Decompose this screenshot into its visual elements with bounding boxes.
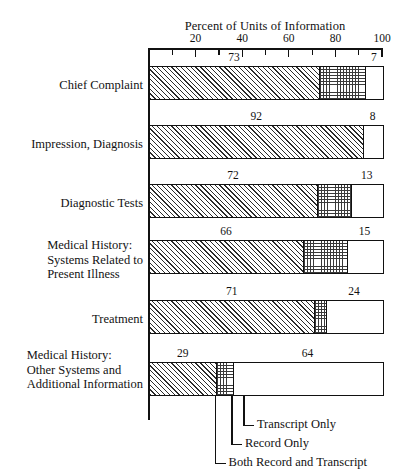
leader-elbow-both-record-and-transcript <box>215 463 226 464</box>
leader-line-transcript-only <box>243 396 244 425</box>
x-tick-label-20: 20 <box>190 32 202 44</box>
value-label-both: 92 <box>250 110 262 122</box>
value-label-transcript-only: 24 <box>348 285 360 297</box>
callout-label-transcript-only: Transcript Only <box>257 417 336 432</box>
y-axis-spine <box>148 48 150 396</box>
stacked-bar <box>149 240 384 274</box>
leader-line-record-only <box>231 396 232 444</box>
value-label-transcript-only: 64 <box>302 347 314 359</box>
stacked-bar <box>149 300 384 334</box>
value-label-both: 72 <box>227 169 239 181</box>
value-label-both: 71 <box>226 285 238 297</box>
value-label-transcript-only: 8 <box>370 110 376 122</box>
x-tick-label-80: 80 <box>330 32 342 44</box>
segment-transcript-only <box>366 67 382 99</box>
segment-both-record-and-transcript <box>150 241 304 273</box>
value-label-both: 29 <box>177 347 189 359</box>
chart-title: Percent of Units of Information <box>148 19 382 34</box>
segment-transcript-only <box>352 185 382 217</box>
segment-transcript-only <box>364 126 383 158</box>
stacked-bar <box>149 362 384 396</box>
stacked-bar <box>149 125 384 159</box>
leader-line-both-record-and-transcript <box>215 396 216 463</box>
row-label: Chief Complaint <box>59 78 143 93</box>
x-tick-label-100: 100 <box>373 32 390 44</box>
leader-elbow-record-only <box>231 444 242 445</box>
segment-record-only <box>217 363 233 395</box>
segment-record-only <box>304 241 348 273</box>
segment-both-record-and-transcript <box>150 185 318 217</box>
row-label: Medical History: Other Systems and Addit… <box>27 348 143 392</box>
x-tick-label-40: 40 <box>236 32 248 44</box>
row-label: Medical History: Systems Related to Pres… <box>47 238 143 282</box>
row-label: Impression, Diagnosis <box>31 137 143 152</box>
value-label-both: 66 <box>220 225 232 237</box>
callout-label-record-only: Record Only <box>245 436 309 451</box>
value-label-transcript-only: 7 <box>371 51 377 63</box>
leader-elbow-transcript-only <box>243 425 254 426</box>
segment-transcript-only <box>348 241 383 273</box>
x-tick-label-60: 60 <box>283 32 295 44</box>
segment-transcript-only <box>327 301 383 333</box>
stacked-bar-chart: Percent of Units of Information 20406080… <box>0 0 407 471</box>
value-label-both: 73 <box>228 51 240 63</box>
segment-both-record-and-transcript <box>150 67 320 99</box>
row-label: Diagnostic Tests <box>60 196 143 211</box>
segment-both-record-and-transcript <box>150 126 364 158</box>
segment-record-only <box>320 67 367 99</box>
segment-record-only <box>318 185 353 217</box>
stacked-bar <box>149 66 384 100</box>
leader-line-bar-left-edge <box>148 396 149 420</box>
value-label-transcript-only: 15 <box>359 225 371 237</box>
stacked-bar <box>149 184 384 218</box>
segment-transcript-only <box>234 363 383 395</box>
segment-both-record-and-transcript <box>150 301 315 333</box>
value-label-transcript-only: 13 <box>361 169 373 181</box>
callout-label-both-record-and-transcript: Both Record and Transcript <box>229 455 368 470</box>
row-label: Treatment <box>92 312 143 327</box>
x-axis-line <box>148 48 383 50</box>
segment-both-record-and-transcript <box>150 363 217 395</box>
segment-record-only <box>315 301 327 333</box>
